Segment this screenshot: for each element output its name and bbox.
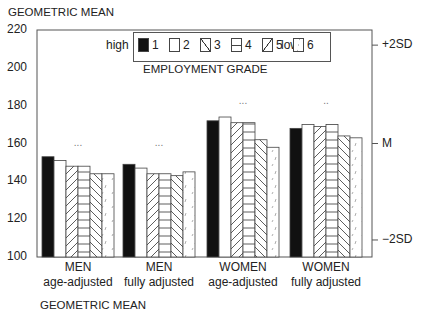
right-axis-label: −2SD <box>382 232 412 246</box>
category-label: WOMEN <box>276 260 376 274</box>
right-axis-label: M <box>382 136 392 150</box>
legend-label-grade-5: 5 <box>276 38 283 52</box>
y-tick-label: 220 <box>7 22 27 36</box>
bar-grade-5 <box>171 176 183 257</box>
legend-label-grade-6: 6 <box>307 38 314 52</box>
legend-swatch-grade-2 <box>169 38 180 52</box>
bar-grade-4 <box>243 123 255 257</box>
bar-grade-1 <box>207 121 219 257</box>
legend-swatch-grade-5 <box>262 38 273 52</box>
bar-grade-6 <box>350 138 362 257</box>
legend-label-grade-1: 1 <box>152 38 159 52</box>
legend-title: EMPLOYMENT GRADE <box>143 63 267 75</box>
trend-marker: ... <box>68 137 88 148</box>
bar-grade-6 <box>102 174 114 257</box>
y-tick-label: 140 <box>7 173 27 187</box>
bar-grade-3 <box>231 123 243 257</box>
y-tick-label: 120 <box>7 211 27 225</box>
bar-grade-4 <box>78 166 90 257</box>
bar-grade-1 <box>123 164 135 257</box>
legend-label-grade-4: 4 <box>245 38 252 52</box>
bar-grade-3 <box>66 166 78 257</box>
legend-swatch-grade-3 <box>200 38 211 52</box>
bar-grade-4 <box>159 174 171 257</box>
bar-grade-1 <box>42 157 54 257</box>
bar-grade-2 <box>302 125 314 257</box>
bar-grade-5 <box>338 136 350 257</box>
bottom-clipped-label: GEOMETRIC MEAN <box>40 299 146 311</box>
legend-swatch-grade-6 <box>293 38 304 52</box>
bar-grade-3 <box>314 126 326 257</box>
trend-marker: ... <box>233 95 253 106</box>
bar-grade-2 <box>135 168 147 257</box>
trend-marker: ... <box>149 137 169 148</box>
legend-swatch-grade-1 <box>138 38 149 52</box>
bar-grade-2 <box>219 117 231 257</box>
right-axis-label: +2SD <box>382 37 412 51</box>
bar-grade-6 <box>183 172 195 257</box>
legend-label-grade-3: 3 <box>214 38 221 52</box>
trend-marker: .. <box>316 95 336 106</box>
y-tick-label: 160 <box>7 136 27 150</box>
legend-high-label: high <box>106 38 129 52</box>
bar-grade-6 <box>267 147 279 257</box>
y-tick-label: 200 <box>7 60 27 74</box>
bar-grade-5 <box>255 140 267 257</box>
y-tick-label: 100 <box>7 249 27 263</box>
legend-label-grade-2: 2 <box>183 38 190 52</box>
bar-grade-2 <box>54 161 66 257</box>
bar-grade-3 <box>147 174 159 257</box>
legend-swatch-grade-4 <box>231 38 242 52</box>
bar-grade-5 <box>90 174 102 257</box>
y-tick-label: 180 <box>7 98 27 112</box>
category-label: fully adjusted <box>276 275 376 289</box>
bar-grade-4 <box>326 125 338 257</box>
bar-grade-1 <box>290 128 302 257</box>
